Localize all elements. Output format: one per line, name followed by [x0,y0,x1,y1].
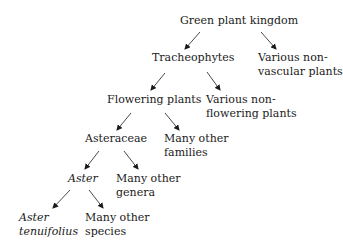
arrow-flowering-to-otherfamilies [165,113,179,130]
node-label-line-1: Aster [19,211,78,225]
arrow-root-to-tracheophytes [185,32,200,49]
node-label: Flowering plants [107,93,201,107]
node-label-line-1: Various non- [258,51,343,65]
node-label-line-1: Many other [116,172,181,186]
node-many-other-families: Many other families [164,132,229,160]
arrow-tracheophytes-to-nonflowering [207,72,220,90]
arrow-asteraceae-to-othergenera [124,151,138,169]
node-various-nonvascular-plants: Various non- vascular plants [258,51,343,79]
arrow-flowering-to-asteraceae [117,113,131,130]
node-label: Tracheophytes [152,51,234,65]
node-label-line-2: species [85,225,150,239]
arrow-asteraceae-to-aster [85,151,99,169]
node-various-nonflowering-plants: Various non- flowering plants [206,93,297,121]
node-label-line-1: Many other [85,211,150,225]
node-aster-tenuifolius: Aster tenuifolius [19,211,78,239]
node-flowering-plants: Flowering plants [107,93,201,107]
node-many-other-genera: Many other genera [116,172,181,200]
arrow-aster-to-otherspecies [89,190,103,208]
node-label: Aster [68,172,98,186]
node-label-line-2: families [164,146,229,160]
node-label: Asteraceae [85,132,147,146]
node-tracheophytes: Tracheophytes [152,51,234,65]
arrow-tracheophytes-to-flowering [151,73,165,90]
node-label: Green plant kingdom [180,14,298,28]
node-label-line-2: tenuifolius [19,225,78,239]
arrow-aster-to-tenuifolius [53,190,70,208]
node-label-line-1: Many other [164,132,229,146]
arrow-root-to-nonvascular [261,32,276,49]
node-label-line-2: genera [116,186,181,200]
node-label-line-2: flowering plants [206,107,297,121]
node-label-line-1: Various non- [206,93,297,107]
node-label-line-2: vascular plants [258,65,343,79]
node-asteraceae: Asteraceae [85,132,147,146]
node-green-plant-kingdom: Green plant kingdom [180,14,298,28]
node-aster: Aster [68,172,98,186]
node-many-other-species: Many other species [85,211,150,239]
